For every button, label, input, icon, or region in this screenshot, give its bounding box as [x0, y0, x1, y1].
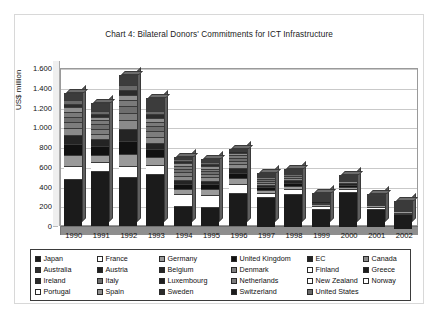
bar-column[interactable]	[394, 201, 412, 226]
bar-segment[interactable]	[64, 179, 82, 226]
x-axis-tick-label: 1992	[115, 231, 143, 240]
legend-swatch-icon	[231, 267, 237, 273]
bar-segment[interactable]	[119, 75, 137, 85]
legend-swatch-icon	[363, 278, 369, 284]
legend-swatch-icon	[307, 278, 313, 284]
legend-item[interactable]: Italy	[97, 275, 159, 286]
bar-segment[interactable]	[64, 144, 82, 154]
legend-grid: JapanFranceGermanyUnited KingdomECCanada…	[35, 253, 406, 297]
bar-segment[interactable]	[91, 139, 109, 146]
bar-segment[interactable]	[64, 166, 82, 179]
bar-segment[interactable]	[146, 174, 164, 226]
bar-segment[interactable]	[201, 207, 219, 226]
bar-segment[interactable]	[339, 192, 357, 227]
legend-item[interactable]: Denmark	[231, 264, 307, 275]
legend-item[interactable]: United States	[307, 286, 363, 297]
legend-swatch-icon	[159, 256, 165, 262]
legend-item[interactable]: Netherlands	[231, 275, 307, 286]
y-axis-tick-label: 1.600	[33, 64, 52, 73]
bar-segment[interactable]	[119, 129, 137, 140]
legend-swatch-icon	[97, 289, 103, 295]
bar-segment[interactable]	[174, 206, 192, 226]
bar-column[interactable]	[91, 103, 109, 226]
legend-item-label: New Zealand	[316, 276, 358, 285]
legend-swatch-icon	[363, 267, 369, 273]
bar-segment[interactable]	[312, 209, 330, 227]
bar-segment[interactable]	[201, 195, 219, 207]
legend-item[interactable]: EC	[307, 253, 363, 264]
legend-item[interactable]: Germany	[159, 253, 231, 264]
legend-item[interactable]: Greece	[363, 264, 409, 275]
legend-item[interactable]: Portugal	[35, 286, 97, 297]
bar-segment[interactable]	[91, 162, 109, 171]
legend-item[interactable]: New Zealand	[307, 275, 363, 286]
legend-item[interactable]: Belgium	[159, 264, 231, 275]
bar-segment[interactable]	[229, 193, 247, 226]
bar-stack	[64, 93, 82, 226]
x-axis-tick-label: 1998	[280, 231, 308, 240]
bar-side-face	[247, 141, 251, 222]
bar-column[interactable]	[284, 169, 302, 226]
bar-column[interactable]	[146, 98, 164, 226]
legend-item[interactable]: United Kingdom	[231, 253, 307, 264]
legend-item[interactable]: Luxembourg	[159, 275, 231, 286]
bar-segment[interactable]	[257, 197, 275, 227]
legend-item-label: Germany	[168, 254, 198, 263]
bar-segment[interactable]	[229, 184, 247, 193]
bar-segment[interactable]	[119, 166, 137, 177]
bar-segment[interactable]	[64, 93, 82, 100]
bar-segment[interactable]	[146, 143, 164, 150]
legend-item[interactable]: Sweden	[159, 286, 231, 297]
bar-segment[interactable]	[64, 155, 82, 166]
bar-column[interactable]	[257, 173, 275, 226]
bar-segment[interactable]	[64, 128, 82, 135]
legend-item-label: France	[106, 254, 128, 263]
legend-item[interactable]: Australia	[35, 264, 97, 275]
bar-column[interactable]	[339, 175, 357, 226]
bar-segment[interactable]	[91, 146, 109, 154]
legend-item[interactable]: Spain	[97, 286, 159, 297]
legend-item[interactable]: France	[97, 253, 159, 264]
legend-item-label: Belgium	[168, 265, 194, 274]
bar-segment[interactable]	[284, 194, 302, 227]
bar-segment[interactable]	[64, 135, 82, 144]
legend-swatch-icon	[97, 256, 103, 262]
x-axis-tick-label: 1996	[225, 231, 253, 240]
legend-item[interactable]: Austria	[97, 264, 159, 275]
bar-segment[interactable]	[119, 113, 137, 120]
bar-segment[interactable]	[119, 177, 137, 226]
legend-item-label: Luxembourg	[168, 276, 208, 285]
bar-column[interactable]	[119, 75, 137, 226]
bar-segment[interactable]	[367, 209, 385, 227]
bar-segment[interactable]	[174, 194, 192, 205]
bar-column[interactable]	[174, 157, 192, 226]
legend-swatch-icon	[97, 267, 103, 273]
legend-item[interactable]: Canada	[363, 253, 409, 264]
gridline	[61, 89, 417, 90]
bar-stack	[119, 75, 137, 226]
legend-item[interactable]: Switzerland	[231, 286, 307, 297]
legend-item[interactable]: Ireland	[35, 275, 97, 286]
bar-segment[interactable]	[91, 155, 109, 162]
bar-segment[interactable]	[394, 214, 412, 229]
x-axis-tick-label: 1995	[197, 231, 225, 240]
bar-segment[interactable]	[146, 149, 164, 157]
bar-column[interactable]	[367, 194, 385, 226]
bar-column[interactable]	[312, 193, 330, 226]
legend-item[interactable]: Norway	[363, 275, 409, 286]
bar-column[interactable]	[201, 159, 219, 226]
bar-segment[interactable]	[119, 154, 137, 166]
bar-top-face	[176, 153, 198, 157]
bar-segment[interactable]	[119, 120, 137, 129]
legend-item[interactable]: Finland	[307, 264, 363, 275]
legend-item[interactable]: Japan	[35, 253, 97, 264]
bar-segment[interactable]	[146, 98, 164, 112]
bar-segment[interactable]	[91, 171, 109, 226]
bar-segment[interactable]	[119, 106, 137, 113]
bar-column[interactable]	[229, 149, 247, 226]
bar-segment[interactable]	[146, 157, 164, 164]
bar-column[interactable]	[64, 93, 82, 226]
bar-segment[interactable]	[146, 165, 164, 174]
bar-segment[interactable]	[91, 103, 109, 112]
bar-segment[interactable]	[119, 141, 137, 154]
